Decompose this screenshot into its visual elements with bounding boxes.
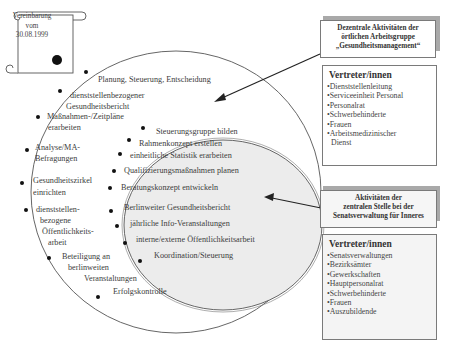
inner-item: Steuerungsgruppe bilden [156, 127, 238, 137]
box-title-line: Senatsverwaltung für Inneres [321, 212, 436, 221]
decentral-activities-box: Dezentrale Aktivitäten der örtlichen Arb… [320, 20, 436, 58]
box-title-line: zentralen Stelle bei der [321, 203, 436, 212]
inner-item: Berlinweiter Gesundheitsbericht [124, 203, 230, 213]
bullet-icon [141, 126, 145, 130]
outer-item: Maßnahmen-/Zeitpläne [47, 112, 124, 122]
central-activities-box: Aktivitäten der zentralen Stelle bei der… [320, 190, 437, 228]
bullet-icon [108, 186, 112, 190]
agreement-vom: vom [12, 22, 52, 32]
bullet-icon [127, 138, 131, 142]
inner-item: interne/externe Öffentlichkeitsarbeit [136, 235, 255, 245]
representative-item: Dienst [331, 138, 436, 147]
decentral-representatives-box: Vertreter/innen •Dienststellenleitung •S… [322, 65, 437, 166]
representative-item: •Frauen [327, 120, 436, 129]
representative-item: •Schwerbehinderte [327, 110, 436, 119]
inner-item: Rahmenkonzept erstellen [139, 139, 222, 149]
outer-item: bezogene [40, 216, 71, 226]
bullet-icon [112, 169, 116, 173]
bullet-icon [58, 89, 62, 93]
outer-item: Befragungen [35, 154, 77, 164]
representatives-title: Vertreter/innen [329, 239, 436, 250]
bullet-icon [118, 152, 122, 156]
representative-item: •Schwerbehinderte [327, 289, 436, 298]
inner-item: Koordination/Steuerung [154, 251, 233, 261]
representative-item: •Senatsverwaltungen [327, 251, 436, 260]
outer-item: erarbeiten [48, 123, 81, 133]
inner-item: Qualifizierungsmaßnahmen planen [124, 166, 239, 176]
representative-item: •Personalrat [327, 101, 436, 110]
outer-item: Gesundheitsbericht [66, 102, 129, 112]
bullet-icon [36, 115, 40, 119]
bullet-icon [25, 148, 29, 152]
arrow-decentral [222, 54, 320, 98]
representative-item: •Arbeitsmedizinischer [327, 129, 436, 138]
bullet-icon [84, 70, 88, 74]
representative-item: •Dienststellenleitung [327, 82, 436, 91]
inner-item: einheitliche Statistik erarbeiten [130, 151, 232, 161]
inner-item: Beratungskonzept entwickeln [121, 183, 218, 193]
outer-item: dienststellenbezogener [70, 91, 145, 101]
bullet-icon [20, 181, 24, 185]
representative-item: •Frauen [327, 298, 436, 307]
representative-item: •Auszubildende [327, 307, 436, 316]
agreement-date: 30.08.1999 [12, 31, 52, 41]
central-representatives-box: Vertreter/innen •Senatsverwaltungen •Bez… [322, 234, 437, 340]
outer-item: einrichten [33, 188, 66, 198]
outer-item: Erfolgskontrolle [113, 287, 167, 297]
bullet-icon [115, 224, 119, 228]
agreement-label: Vereinbarung [12, 12, 52, 22]
outer-item: Analyse/MA- [35, 143, 80, 153]
outer-item: Veranstaltungen [84, 274, 137, 284]
outer-item: berlinweiten [68, 263, 109, 273]
box-title-line: Aktivitäten der [321, 194, 436, 203]
outer-item: Planung, Steuerung, Entscheidung [98, 75, 211, 85]
bullet-icon [96, 295, 100, 299]
agreement-note: Vereinbarung vom 30.08.1999 [12, 12, 52, 41]
bullet-icon [109, 209, 113, 213]
outer-item: Gesundheitszirkel [33, 176, 92, 186]
outer-item: dienststellen- [36, 205, 80, 215]
inner-item: jährliche Info-Veranstaltungen [130, 219, 230, 229]
bullet-icon [47, 256, 51, 260]
outer-item: Öffentlichkeits- [42, 227, 94, 237]
box-title-line: „Gesundheitsmanagement“ [321, 42, 435, 51]
representative-item: •Hauptpersonalrat [327, 279, 436, 288]
box-title-line: örtlichen Arbeitsgruppe [321, 33, 435, 42]
representative-item: •Bezirksämter [327, 260, 436, 269]
representative-item: •Gewerkschaften [327, 270, 436, 279]
bullet-icon [123, 241, 127, 245]
seal-icon [52, 55, 62, 65]
bullet-icon [138, 259, 142, 263]
representatives-title: Vertreter/innen [329, 70, 436, 81]
outer-item: arbeit [48, 238, 67, 248]
bullet-icon [24, 208, 28, 212]
box-title-line: Dezentrale Aktivitäten der [321, 24, 435, 33]
representative-item: •Serviceeinheit Personal [327, 91, 436, 100]
outer-item: Beteiligung an [62, 252, 110, 262]
